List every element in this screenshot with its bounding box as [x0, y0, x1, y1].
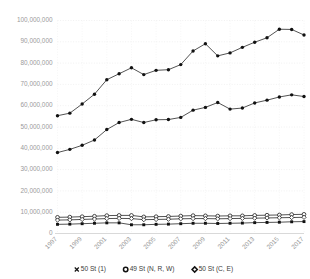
- data-point-marker: [266, 221, 269, 224]
- data-point-marker: [118, 221, 121, 224]
- data-point-marker: [241, 46, 244, 49]
- data-point-marker: [191, 108, 194, 111]
- data-point-marker: [68, 223, 71, 226]
- y-axis-tick-label: 50,000,000: [21, 123, 53, 130]
- data-point-marker: [302, 95, 305, 98]
- legend-item[interactable]: 49 St (N, R, W): [123, 265, 174, 273]
- data-point-marker: [179, 63, 182, 66]
- y-axis-tick-label: 100,000,000: [17, 16, 53, 23]
- data-point-marker: [228, 107, 231, 110]
- data-point-marker: [216, 222, 219, 225]
- data-point-marker: [142, 121, 145, 124]
- data-point-marker: [278, 221, 281, 224]
- y-axis-tick-label: 30,000,000: [21, 165, 53, 172]
- data-point-marker: [228, 51, 231, 54]
- data-point-marker: [290, 93, 293, 96]
- data-point-marker: [303, 220, 306, 223]
- y-axis-tick-label: 70,000,000: [21, 80, 53, 87]
- data-point-marker: [179, 116, 182, 119]
- data-point-marker: [278, 95, 281, 98]
- data-point-marker: [93, 138, 96, 141]
- data-point-marker: [253, 221, 256, 224]
- chart-container: 010,000,00020,000,00030,000,00040,000,00…: [0, 0, 310, 279]
- data-point-marker: [191, 49, 194, 52]
- data-point-marker: [117, 121, 120, 124]
- legend-item-label: 50 St (1): [81, 265, 106, 273]
- data-point-marker: [179, 222, 182, 225]
- data-point-marker: [155, 223, 158, 226]
- data-point-marker: [241, 106, 244, 109]
- data-point-marker: [204, 106, 207, 109]
- data-point-marker: [265, 36, 268, 39]
- y-axis-tick-label: 20,000,000: [21, 187, 53, 194]
- y-axis-tick-label: 10,000,000: [21, 208, 53, 215]
- data-point-marker: [80, 102, 83, 105]
- data-point-marker: [68, 148, 71, 151]
- data-point-marker: [105, 128, 108, 131]
- data-point-marker: [130, 66, 133, 69]
- chart-legend: 50 St (1)49 St (N, R, W)50 St (C, E): [75, 265, 233, 273]
- data-point-marker: [56, 114, 59, 117]
- legend-marker-diamond-icon: [192, 267, 197, 272]
- data-point-marker: [142, 73, 145, 76]
- data-point-marker: [117, 72, 120, 75]
- data-point-marker: [216, 101, 219, 104]
- data-point-marker: [253, 101, 256, 104]
- data-point-marker: [216, 54, 219, 57]
- y-axis-tick-label: 80,000,000: [21, 59, 53, 66]
- legend-item-label: 49 St (N, R, W): [130, 265, 175, 273]
- data-point-marker: [278, 28, 281, 31]
- data-point-marker: [93, 92, 96, 95]
- data-point-marker: [167, 118, 170, 121]
- data-point-marker: [290, 220, 293, 223]
- data-point-marker: [241, 222, 244, 225]
- data-point-marker: [105, 221, 108, 224]
- data-point-marker: [81, 222, 84, 225]
- legend-item-label: 50 St (C, E): [199, 265, 233, 273]
- data-point-marker: [229, 222, 232, 225]
- legend-item[interactable]: 50 St (C, E): [192, 265, 233, 273]
- data-point-marker: [204, 222, 207, 225]
- y-axis-tick-label: 60,000,000: [21, 101, 53, 108]
- data-point-marker: [265, 98, 268, 101]
- data-point-marker: [105, 78, 108, 81]
- data-point-marker: [302, 33, 305, 36]
- data-point-marker: [167, 68, 170, 71]
- y-axis-tick-label: 90,000,000: [21, 37, 53, 44]
- data-point-marker: [142, 223, 145, 226]
- line-chart: 010,000,00020,000,00030,000,00040,000,00…: [0, 0, 310, 279]
- data-point-marker: [154, 118, 157, 121]
- data-point-marker: [290, 28, 293, 31]
- data-point-marker: [167, 223, 170, 226]
- data-point-marker: [93, 222, 96, 225]
- data-point-marker: [192, 222, 195, 225]
- data-point-marker: [56, 223, 59, 226]
- data-point-marker: [68, 111, 71, 114]
- legend-marker-circle-icon: [123, 267, 127, 271]
- data-point-marker: [130, 223, 133, 226]
- data-point-marker: [204, 42, 207, 45]
- data-point-marker: [253, 41, 256, 44]
- data-point-marker: [56, 151, 59, 154]
- data-point-marker: [80, 144, 83, 147]
- data-point-marker: [130, 118, 133, 121]
- data-point-marker: [154, 69, 157, 72]
- y-axis-tick-label: 40,000,000: [21, 144, 53, 151]
